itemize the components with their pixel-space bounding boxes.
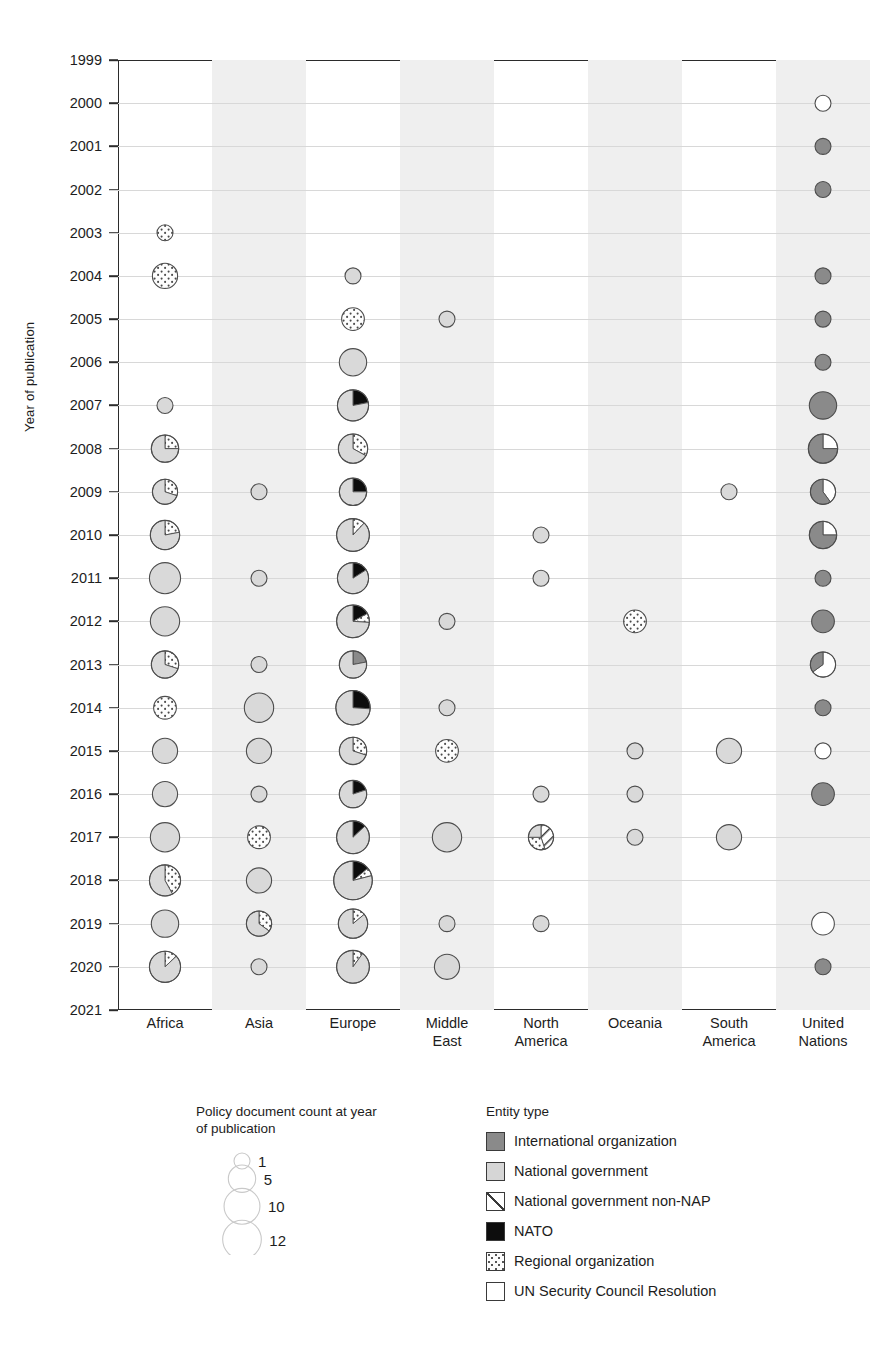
pie-mark[interactable] [533, 916, 549, 932]
legend-entity-item-national-government-non-nap[interactable]: National government non-NAP [486, 1186, 866, 1216]
legend-swatch-regional-organization [486, 1252, 505, 1271]
pie-mark[interactable] [149, 865, 180, 896]
y-tick-mark [109, 405, 118, 407]
pie-mark[interactable] [815, 95, 831, 111]
pie-mark[interactable] [150, 607, 179, 636]
pie-slice-national-government [251, 959, 267, 975]
pie-mark[interactable] [336, 691, 370, 725]
pie-mark[interactable] [812, 610, 835, 633]
pie-mark[interactable] [815, 354, 831, 370]
y-tick-label: 2007 [70, 397, 102, 413]
pie-mark[interactable] [716, 738, 741, 763]
pie-mark[interactable] [815, 268, 831, 284]
pie-mark[interactable] [154, 696, 177, 719]
pie-mark[interactable] [809, 521, 836, 548]
pie-mark[interactable] [246, 911, 271, 936]
legend-entity-label: NATO [514, 1223, 553, 1239]
pie-mark[interactable] [439, 916, 455, 932]
pie-mark[interactable] [627, 829, 643, 845]
legend-entity-item-nato[interactable]: NATO [486, 1216, 866, 1246]
pie-mark[interactable] [337, 821, 370, 854]
pie-mark[interactable] [152, 738, 177, 763]
pie-mark[interactable] [152, 263, 177, 288]
pie-mark[interactable] [339, 780, 366, 807]
pie-mark[interactable] [812, 783, 835, 806]
pie-mark[interactable] [815, 311, 831, 327]
pie-mark[interactable] [338, 434, 367, 463]
legend-size-rows: 151012 [196, 1143, 486, 1255]
pie-mark[interactable] [528, 825, 553, 850]
pie-mark[interactable] [439, 613, 455, 629]
pie-mark[interactable] [157, 225, 173, 241]
pie-mark[interactable] [721, 484, 737, 500]
pie-mark[interactable] [815, 570, 831, 586]
pie-slice-national-government [533, 527, 549, 543]
pie-mark[interactable] [815, 700, 831, 716]
pie-mark[interactable] [624, 610, 647, 633]
pie-mark[interactable] [248, 826, 271, 849]
pie-mark[interactable] [338, 909, 367, 938]
pie-mark[interactable] [812, 912, 835, 935]
pie-mark[interactable] [815, 138, 831, 154]
pie-mark[interactable] [251, 959, 267, 975]
pie-mark[interactable] [251, 484, 267, 500]
legend-entity-item-regional-organization[interactable]: Regional organization [486, 1246, 866, 1276]
pie-mark[interactable] [149, 563, 180, 594]
legend-entity-item-national-government[interactable]: National government [486, 1156, 866, 1186]
legend-entity-item-international-organization[interactable]: International organization [486, 1126, 866, 1156]
pie-mark[interactable] [337, 950, 370, 983]
pie-mark[interactable] [815, 182, 831, 198]
pie-mark[interactable] [152, 781, 177, 806]
pie-mark[interactable] [337, 563, 368, 594]
pie-mark[interactable] [339, 651, 366, 678]
pie-mark[interactable] [337, 390, 368, 421]
pie-mark[interactable] [810, 652, 835, 677]
pie-mark[interactable] [251, 657, 267, 673]
pie-mark[interactable] [152, 479, 177, 504]
pie-mark[interactable] [815, 959, 831, 975]
pie-mark[interactable] [151, 910, 178, 937]
legend-swatch-national-government-non-nap [486, 1192, 505, 1211]
pie-slice-regional-organization [154, 696, 177, 719]
pie-mark[interactable] [432, 823, 461, 852]
pie-slice-national-government [533, 786, 549, 802]
pie-mark[interactable] [533, 527, 549, 543]
pie-mark[interactable] [436, 740, 459, 763]
pie-mark[interactable] [150, 823, 179, 852]
pie-mark[interactable] [434, 954, 459, 979]
legend-entity-item-un-security-council-resolution[interactable]: UN Security Council Resolution [486, 1276, 866, 1306]
pie-mark[interactable] [810, 479, 835, 504]
y-tick-label: 2002 [70, 182, 102, 198]
pie-mark[interactable] [157, 397, 173, 413]
pie-mark[interactable] [815, 743, 831, 759]
pie-mark[interactable] [339, 737, 366, 764]
pie-slice-regional-organization [157, 225, 173, 241]
pie-mark[interactable] [345, 268, 361, 284]
pie-mark[interactable] [151, 651, 178, 678]
pie-mark[interactable] [627, 786, 643, 802]
pie-mark[interactable] [244, 693, 273, 722]
y-tick-mark [109, 146, 118, 148]
pie-mark[interactable] [334, 861, 373, 900]
pie-mark[interactable] [246, 738, 271, 763]
pie-mark[interactable] [246, 868, 271, 893]
pie-slice-international-organization [815, 182, 831, 198]
pie-mark[interactable] [339, 349, 366, 376]
pie-mark[interactable] [342, 308, 365, 331]
pie-mark[interactable] [533, 786, 549, 802]
pie-mark[interactable] [337, 519, 370, 552]
pie-mark[interactable] [251, 786, 267, 802]
pie-mark[interactable] [251, 570, 267, 586]
pie-mark[interactable] [439, 700, 455, 716]
pie-mark[interactable] [151, 435, 178, 462]
pie-mark[interactable] [716, 825, 741, 850]
pie-mark[interactable] [533, 570, 549, 586]
pie-mark[interactable] [337, 605, 370, 638]
pie-mark[interactable] [809, 392, 836, 419]
pie-mark[interactable] [150, 520, 179, 549]
pie-mark[interactable] [808, 434, 837, 463]
pie-mark[interactable] [149, 951, 180, 982]
pie-mark[interactable] [439, 311, 455, 327]
pie-mark[interactable] [627, 743, 643, 759]
pie-mark[interactable] [339, 478, 366, 505]
